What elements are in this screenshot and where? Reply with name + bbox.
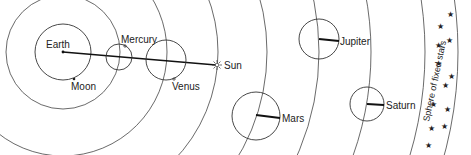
sun-orbit — [0, 0, 218, 155]
jupiter-radius — [319, 39, 339, 41]
star-icon: ★ — [446, 36, 453, 45]
earth-marker — [62, 51, 65, 54]
star-icon: ★ — [444, 105, 451, 114]
fixed-stars-outer-boundary — [0, 0, 458, 155]
saturn-label: Saturn — [386, 100, 415, 111]
star-icon: ★ — [435, 41, 442, 50]
star-icon: ★ — [441, 122, 448, 131]
mercury-orbit — [6, 0, 120, 109]
star-icon: ★ — [430, 100, 437, 109]
mars-label: Mars — [282, 113, 304, 124]
mars-orbit — [0, 0, 267, 155]
sun-label: Sun — [224, 60, 242, 71]
star-icon: ★ — [442, 81, 449, 90]
star-icon: ★ — [425, 141, 432, 150]
sun-icon — [212, 60, 222, 70]
star-icon: ★ — [428, 124, 435, 133]
earth-label: Earth — [46, 39, 70, 50]
mars-radius — [256, 115, 280, 118]
venus-label: Venus — [172, 81, 200, 92]
venus-orbit — [0, 0, 167, 155]
moon-label: Moon — [71, 81, 96, 92]
fixed-stars-inner-boundary — [0, 0, 425, 155]
diagram-canvas: Earth Moon Mercury Venus Sun Mars Jupite… — [0, 0, 471, 155]
saturn-orbit — [0, 0, 371, 155]
earth-sun-line — [63, 52, 216, 65]
saturn-radius — [367, 104, 384, 105]
geocentric-diagram: Earth Moon Mercury Venus Sun Mars Jupite… — [0, 0, 471, 155]
jupiter-orbit — [0, 0, 319, 155]
mercury-label: Mercury — [121, 34, 157, 45]
moon-marker — [73, 78, 76, 81]
star-icon: ★ — [437, 22, 444, 31]
star-icon: ★ — [448, 72, 455, 81]
star-icon: ★ — [435, 59, 442, 68]
star-icon: ★ — [447, 10, 454, 19]
jupiter-label: Jupiter — [340, 36, 371, 47]
